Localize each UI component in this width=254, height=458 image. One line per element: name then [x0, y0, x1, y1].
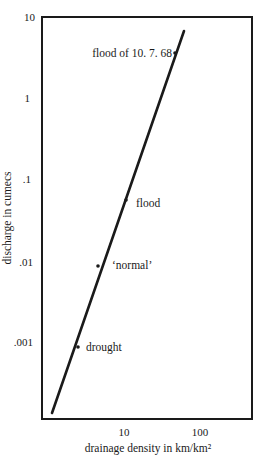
x-tick-label: 100 — [192, 426, 209, 438]
plot-frame — [42, 17, 252, 419]
data-point-normal — [96, 264, 100, 268]
data-point-flood-10-7-68 — [173, 51, 177, 55]
x-axis-title: drainage density in km/km² — [85, 442, 212, 455]
y-tick-label: 10 — [24, 11, 36, 23]
annotation-flood: flood — [136, 197, 161, 209]
annotation-flood-10-7-68: flood of 10. 7. 68 — [92, 47, 172, 59]
y-tick-label: .1 — [23, 173, 31, 185]
chart-canvas: 10 1 .1 .01 .001 10 100 drainage density… — [0, 0, 254, 458]
y-tick-label: 1 — [25, 92, 31, 104]
y-axis-title: discharge in cumecs — [1, 171, 14, 265]
data-point-drought — [76, 345, 80, 349]
x-tick-label: 10 — [119, 426, 131, 438]
y-tick-label: .01 — [19, 256, 33, 268]
data-point-flood — [124, 198, 128, 202]
annotation-drought: drought — [86, 341, 123, 354]
annotation-normal: ‘normal’ — [112, 259, 152, 271]
regression-line — [52, 31, 184, 413]
y-tick-label: .001 — [14, 336, 33, 348]
